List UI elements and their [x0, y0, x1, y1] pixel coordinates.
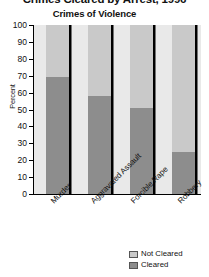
y-tick-label: 20 [1, 156, 27, 165]
stacked-bar[interactable] [130, 25, 153, 194]
stacked-bar[interactable] [88, 25, 111, 194]
y-tick-label: 90 [1, 38, 27, 47]
legend-swatch-icon [129, 251, 138, 258]
stacked-bar[interactable] [172, 25, 195, 194]
y-tick-label: 40 [1, 122, 27, 131]
chart-legend: Not ClearedCleared [129, 249, 183, 271]
y-tick-label: 10 [1, 173, 27, 182]
legend-item[interactable]: Not Cleared [129, 249, 183, 259]
bar-segment-not-cleared [172, 25, 195, 152]
legend-label: Cleared [141, 260, 168, 270]
y-tick-label: 50 [1, 106, 27, 115]
y-tick-label: 30 [1, 139, 27, 148]
bar-slot [172, 25, 195, 194]
chart-title: Crimes Cleared by Arrest, 1996 [0, 0, 209, 5]
legend-swatch-icon [129, 262, 138, 269]
y-tick-label: 70 [1, 72, 27, 81]
y-tick-label: 0 [1, 190, 27, 199]
y-tick-label: 100 [1, 21, 27, 30]
bar-segment-not-cleared [130, 25, 153, 108]
bar-slot [46, 25, 69, 194]
chart-subtitle: Crimes of Violence [0, 8, 189, 19]
bar-segment-not-cleared [46, 25, 69, 77]
y-tick-label: 60 [1, 89, 27, 98]
bar-segment-cleared [46, 77, 69, 194]
legend-label: Not Cleared [141, 249, 183, 259]
bar-segment-not-cleared [88, 25, 111, 96]
bar-slot [88, 25, 111, 194]
stacked-bar[interactable] [46, 25, 69, 194]
y-tick-label: 80 [1, 55, 27, 64]
bar-slot [130, 25, 153, 194]
legend-item[interactable]: Cleared [129, 260, 183, 270]
